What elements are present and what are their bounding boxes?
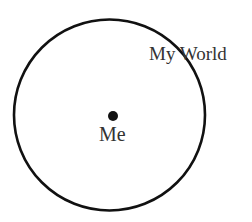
me-dot [108,111,118,121]
me-label: Me [99,124,126,144]
world-label: My World [149,44,227,63]
diagram-graphic [0,0,252,222]
diagram-canvas: My World Me [0,0,252,222]
